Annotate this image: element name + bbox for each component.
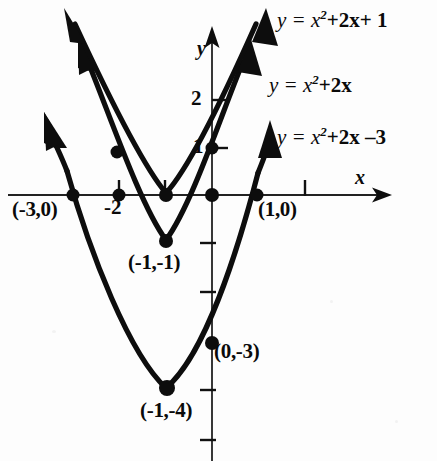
x-axis-label: x [355,167,365,187]
curve-1-left-arrowhead [64,8,86,44]
point-minus1-minus1 [159,234,173,248]
equation-3-rhs: +2x –3 [327,125,386,149]
point-0-1 [206,142,219,155]
equation-1-lhs: y = x [277,8,320,32]
parabola-figure: y = x2+2x+ 1 y = x2+2x y = x2+2x –3 y x … [0,0,437,461]
equation-label-1: y = x2+2x+ 1 [277,8,388,31]
equation-1-rhs: +2x+ 1 [327,8,388,32]
annotation-minus1-minus1: (-1,-1) [128,252,180,273]
y-tick-label-1: 1 [193,136,204,157]
curve-y-eq-x2-plus-2x-plus-1 [64,8,278,193]
point-minus1-0 [159,188,173,202]
graph-canvas [0,0,437,461]
point-origin-0-0 [205,188,219,202]
point-curve2-left [111,146,124,159]
curve-1-path [75,24,256,193]
equation-2-rhs: +2x [319,73,352,97]
equation-label-3: y = x2+2x –3 [277,125,386,148]
annotation-minus1-minus4: (-1,-4) [140,400,192,421]
equation-3-lhs: y = x [277,125,320,149]
annotation-1-0: (1,0) [258,199,297,220]
annotation-minus3-0: (-3,0) [12,199,57,220]
point-minus1-minus4 [159,380,175,396]
equation-label-2: y = x2+2x [269,73,352,96]
y-tick-label-2: 2 [191,88,202,109]
equation-2-lhs: y = x [269,73,312,97]
x-tick-label-minus2: -2 [104,197,122,218]
point-minus3-0 [67,189,80,202]
annotation-0-minus3: (0,-3) [214,341,259,362]
y-axis-label: y [197,38,206,58]
